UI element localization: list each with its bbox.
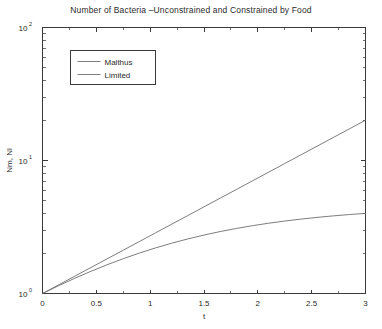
legend-label-malthus: Malthus [105,58,133,67]
y-tick-label-exp-1: 1 [29,154,32,160]
y-tick-label-base-1: 10 [19,157,28,166]
x-axis-title: t [203,312,206,321]
figure-canvas: Number of Bacteria –Unconstrained and Co… [0,0,382,329]
curve-malthus [43,120,366,293]
x-tick-label-6: 3 [363,299,368,308]
y-axis-title: Nm, Nl [5,148,14,173]
plot-area: MalthusLimited 00.511.522.53100101102tNm… [0,0,382,329]
x-tick-label-1: 0.5 [91,299,103,308]
axis-labels-group: 00.511.522.53100101102tNm, Nl [5,21,368,321]
curve-limited [43,213,366,293]
curves-group [43,120,366,293]
x-tick-label-0: 0 [40,299,45,308]
legend-group: MalthusLimited [71,51,156,85]
y-tick-label-base-2: 10 [19,24,28,33]
y-tick-label-base-0: 10 [19,290,28,299]
y-tick-label-exp-2: 2 [29,21,32,27]
x-tick-label-3: 1.5 [198,299,210,308]
x-tick-label-5: 2.5 [306,299,318,308]
y-tick-label-exp-0: 0 [29,287,32,293]
x-tick-label-4: 2 [256,299,261,308]
x-tick-label-2: 1 [148,299,153,308]
legend-label-limited: Limited [105,71,131,80]
